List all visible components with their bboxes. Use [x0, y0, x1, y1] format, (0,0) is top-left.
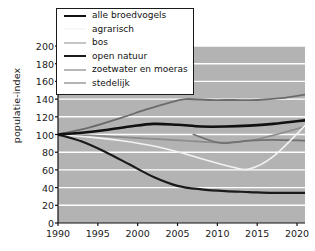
legend-item-stedelijk: stedelijk	[63, 77, 193, 91]
legend-line-icon	[63, 64, 87, 76]
y-tick-label: 20	[28, 200, 54, 211]
legend-item-alle-broedvogels: alle broedvogels	[63, 9, 193, 23]
legend-item-open-natuur: open natuur	[63, 50, 193, 64]
x-tick-label: 2010	[205, 228, 229, 239]
y-tick-label: 40	[28, 182, 54, 193]
series-line	[58, 135, 305, 193]
y-tick-label: 200	[28, 41, 54, 52]
y-tick-label: 180	[28, 58, 54, 69]
legend-item-label: agrarisch	[92, 25, 134, 34]
y-tick-label: 100	[28, 129, 54, 140]
y-axis-title: populatie-index	[11, 46, 22, 166]
x-tick-label: 2005	[165, 228, 189, 239]
legend-item-label: bos	[92, 38, 108, 47]
x-tick-label: 2015	[245, 228, 269, 239]
legend-line-icon	[63, 37, 87, 49]
legend-line-icon	[63, 77, 87, 89]
series-line	[58, 95, 305, 135]
legend-item-bos: bos	[63, 36, 193, 50]
y-tick-label: 80	[28, 147, 54, 158]
legend-line-icon	[63, 23, 87, 35]
legend-item-label: stedelijk	[92, 79, 130, 88]
legend-item-label: open natuur	[92, 52, 147, 61]
chart-root: populatie-index 020406080100120140160180…	[0, 0, 315, 251]
y-tick-label: 160	[28, 76, 54, 87]
legend: alle broedvogels agrarisch bos open natu…	[56, 8, 194, 95]
x-tick-label: 1995	[86, 228, 110, 239]
legend-line-icon	[63, 10, 87, 22]
y-tick-label: 140	[28, 94, 54, 105]
y-tick-label: 60	[28, 164, 54, 175]
y-tick-label: 120	[28, 111, 54, 122]
legend-item-label: zoetwater en moeras	[92, 65, 188, 74]
y-tick-label: 0	[28, 218, 54, 229]
x-tick-label: 2020	[285, 228, 309, 239]
legend-item-label: alle broedvogels	[92, 11, 166, 20]
legend-line-icon	[63, 50, 87, 62]
x-tick-label: 2000	[126, 228, 150, 239]
series-line	[58, 120, 305, 134]
y-axis-tick-labels: 020406080100120140160180200	[28, 0, 54, 251]
legend-item-agrarisch: agrarisch	[63, 23, 193, 37]
legend-item-zoetwater-en-moeras: zoetwater en moeras	[63, 63, 193, 77]
x-tick-label: 1990	[46, 228, 70, 239]
